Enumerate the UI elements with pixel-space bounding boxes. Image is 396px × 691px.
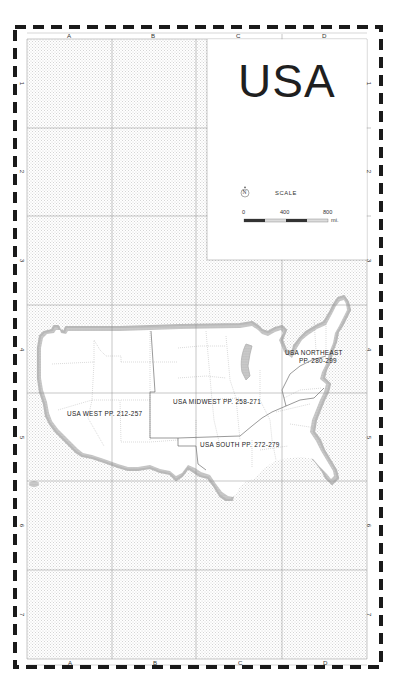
region-link-usa-west[interactable]: USA WEST PP. 212-257	[67, 410, 142, 418]
region-northeast-pages: PP. 280-299	[285, 357, 343, 365]
scale-tick-800: 800	[323, 209, 332, 215]
scale-bar	[244, 219, 328, 222]
scale-label: SCALE	[275, 190, 297, 196]
row-label-5-right: 5	[366, 436, 373, 440]
row-label-6-right: 6	[366, 524, 373, 528]
row-label-2-right: 2	[366, 170, 373, 174]
scale-unit: mi.	[331, 217, 338, 223]
col-label-d-bottom: D	[323, 659, 328, 666]
row-label-3-right: 3	[366, 259, 373, 263]
map-canvas	[0, 0, 396, 691]
row-label-1-left: 1	[19, 82, 26, 86]
row-label-7-left: 7	[19, 613, 26, 617]
region-link-usa-south[interactable]: USA SOUTH PP. 272-279	[200, 441, 280, 449]
col-label-a-top: A	[67, 32, 71, 39]
col-label-c-bottom: C	[238, 659, 243, 666]
region-northeast-name: USA NORTHEAST	[285, 349, 343, 357]
col-label-c-top: C	[236, 32, 241, 39]
north-arrow-label: N	[243, 189, 247, 195]
row-label-3-left: 3	[19, 259, 26, 263]
col-label-d-top: D	[322, 32, 327, 39]
row-label-2-left: 2	[19, 170, 26, 174]
col-label-a-bottom: A	[68, 659, 72, 666]
row-label-5-left: 5	[19, 436, 26, 440]
row-label-4-left: 4	[19, 348, 26, 352]
region-link-usa-midwest[interactable]: USA MIDWEST PP. 258-271	[173, 398, 261, 406]
region-link-usa-northeast[interactable]: USA NORTHEAST PP. 280-299	[285, 349, 343, 365]
row-label-4-right: 4	[366, 348, 373, 352]
col-label-b-top: B	[151, 32, 155, 39]
map-page: A B C D A B C D 1 2 3 4 5 6 7 1 2 3 4 5 …	[0, 0, 396, 691]
col-label-b-bottom: B	[153, 659, 157, 666]
scale-tick-0: 0	[242, 209, 245, 215]
scale-tick-400: 400	[280, 209, 289, 215]
map-title: USA	[238, 58, 336, 104]
row-label-1-right: 1	[366, 82, 373, 86]
row-label-7-right: 7	[366, 613, 373, 617]
row-label-6-left: 6	[19, 524, 26, 528]
